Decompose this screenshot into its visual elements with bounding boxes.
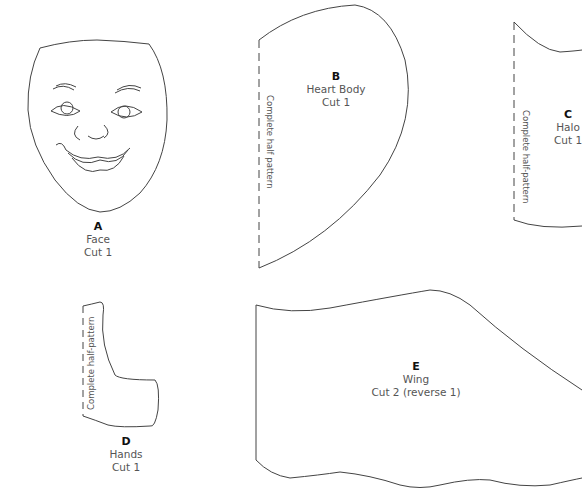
- piece-letter: D: [56, 435, 196, 448]
- fold-note-b: Complete half pattern: [265, 95, 275, 189]
- piece-cut: Cut 1: [56, 461, 196, 474]
- piece-a-label: A Face Cut 1: [28, 220, 168, 259]
- piece-cut: Cut 2 (reverse 1): [346, 386, 486, 399]
- fold-note-c: Complete half-pattern: [521, 110, 531, 203]
- piece-cut: Cut 1: [28, 246, 168, 259]
- piece-d-label: D Hands Cut 1: [56, 435, 196, 474]
- piece-letter: E: [346, 360, 486, 373]
- piece-letter: B: [266, 70, 406, 83]
- piece-b-label: B Heart Body Cut 1: [266, 70, 406, 109]
- piece-letter: C: [498, 108, 582, 121]
- piece-b-heart-body-outline: [259, 5, 408, 268]
- piece-cut: Cut 1: [498, 134, 582, 147]
- piece-name: Heart Body: [266, 83, 406, 96]
- piece-name: Hands: [56, 448, 196, 461]
- piece-e-label: E Wing Cut 2 (reverse 1): [346, 360, 486, 399]
- piece-cut: Cut 1: [266, 96, 406, 109]
- piece-letter: A: [28, 220, 168, 233]
- piece-name: Wing: [346, 373, 486, 386]
- piece-name: Halo: [498, 121, 582, 134]
- piece-name: Face: [28, 233, 168, 246]
- fold-note-d: Complete half-pattern: [86, 317, 96, 410]
- piece-a-face-outline: [28, 40, 167, 212]
- piece-c-label: C Halo Cut 1: [498, 108, 582, 147]
